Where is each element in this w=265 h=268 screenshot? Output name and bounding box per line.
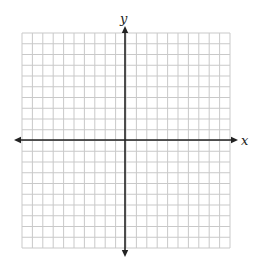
x-axis-label: x (241, 133, 249, 148)
y-axis-top-arrow-icon (122, 26, 128, 33)
x-axis-right-arrow-icon (231, 137, 238, 143)
y-axis-bottom-arrow-icon (122, 250, 128, 257)
y-axis-label: y (119, 11, 128, 26)
x-axis-left-arrow-icon (14, 137, 21, 143)
coordinate-plane: x y (0, 0, 265, 268)
